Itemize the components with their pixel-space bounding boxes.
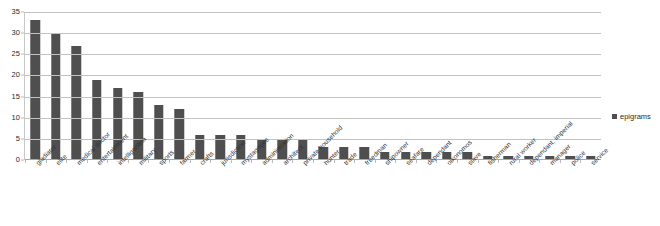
legend-label-epigrams: epigrams bbox=[620, 113, 651, 121]
gridline bbox=[25, 118, 601, 119]
bar-slot bbox=[292, 12, 313, 160]
bar-slot bbox=[210, 12, 231, 160]
bar-slot bbox=[169, 12, 190, 160]
y-axis-tick-label: 30 bbox=[11, 29, 20, 37]
bar-slot bbox=[395, 12, 416, 160]
bar-slot bbox=[66, 12, 87, 160]
y-axis-tick-label: 10 bbox=[11, 114, 20, 122]
y-axis-tick-label: 15 bbox=[11, 93, 20, 101]
bar-slot bbox=[416, 12, 437, 160]
y-axis-tick-label: 5 bbox=[16, 135, 20, 143]
gridline bbox=[25, 97, 601, 98]
bar-slot bbox=[375, 12, 396, 160]
bar-slot bbox=[580, 12, 601, 160]
gridline bbox=[25, 33, 601, 34]
y-axis-tick-label: 20 bbox=[11, 72, 20, 80]
gridline bbox=[25, 75, 601, 76]
x-axis-labels: gladiatorelitemedical doctorentertainmen… bbox=[24, 162, 600, 226]
bar[interactable] bbox=[72, 46, 81, 160]
plot-area bbox=[24, 12, 601, 160]
bar-slot bbox=[25, 12, 46, 160]
bar-chart: 05101520253035 gladiatorelitemedical doc… bbox=[0, 0, 660, 226]
bar-slot bbox=[498, 12, 519, 160]
bar-slot bbox=[46, 12, 67, 160]
bar-slot bbox=[436, 12, 457, 160]
legend: epigrams bbox=[612, 113, 651, 121]
bar-slot bbox=[334, 12, 355, 160]
bar-slot bbox=[148, 12, 169, 160]
y-axis-tick-label: 0 bbox=[16, 156, 20, 164]
bar-slot bbox=[354, 12, 375, 160]
gridline bbox=[25, 54, 601, 55]
y-axis-tick-label: 35 bbox=[11, 8, 20, 16]
bar-group bbox=[25, 12, 601, 160]
legend-swatch-epigrams bbox=[612, 114, 617, 119]
bar-slot bbox=[560, 12, 581, 160]
y-axis: 05101520253035 bbox=[0, 12, 24, 160]
gridline bbox=[25, 12, 601, 13]
gridline bbox=[25, 139, 601, 140]
bar-slot bbox=[478, 12, 499, 160]
bar-slot bbox=[190, 12, 211, 160]
y-axis-tick-label: 25 bbox=[11, 51, 20, 59]
